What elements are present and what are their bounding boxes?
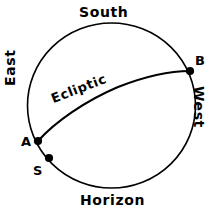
label-east: East (3, 50, 17, 86)
label-west: West (192, 86, 206, 128)
label-point-s: S (33, 164, 42, 177)
label-horizon: Horizon (80, 193, 145, 207)
horizon-circle (28, 23, 196, 188)
diagram-canvas (0, 0, 221, 213)
point-marker-b (186, 67, 194, 75)
label-south: South (79, 5, 128, 19)
label-point-b: B (195, 54, 205, 67)
point-marker-s (45, 154, 53, 162)
label-point-a: A (21, 135, 31, 148)
ecliptic-curve (38, 71, 190, 141)
point-marker-a (34, 137, 42, 145)
sky-diagram: South Horizon East West Ecliptic A S B (0, 0, 221, 213)
